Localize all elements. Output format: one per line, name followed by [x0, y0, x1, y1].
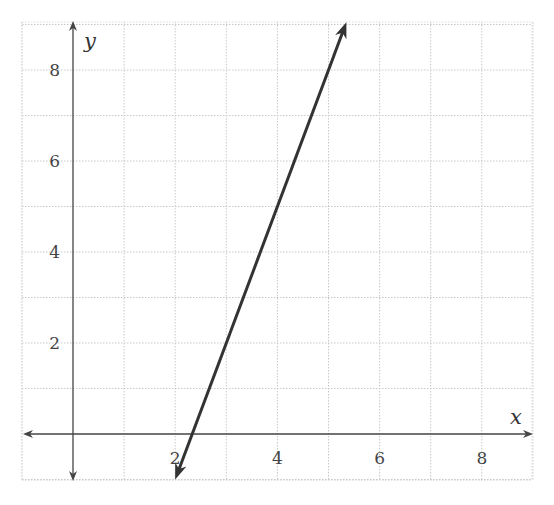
x-tick-label: 8: [476, 448, 487, 468]
y-tick-label: 4: [49, 242, 60, 262]
y-tick-label: 2: [49, 333, 60, 353]
x-axis-label: x: [510, 405, 522, 429]
y-axis-label: y: [83, 29, 97, 53]
tick-labels: 24682468: [49, 60, 487, 468]
y-tick-label: 8: [49, 60, 60, 80]
chart-canvas: 24682468 x y: [0, 0, 554, 505]
x-tick-label: 4: [272, 448, 283, 468]
x-tick-label: 6: [374, 448, 385, 468]
y-tick-label: 6: [49, 151, 60, 171]
plot-line: [178, 30, 344, 472]
axes: [23, 21, 533, 481]
grid-lines: [22, 22, 533, 480]
plot-series: [175, 22, 346, 479]
